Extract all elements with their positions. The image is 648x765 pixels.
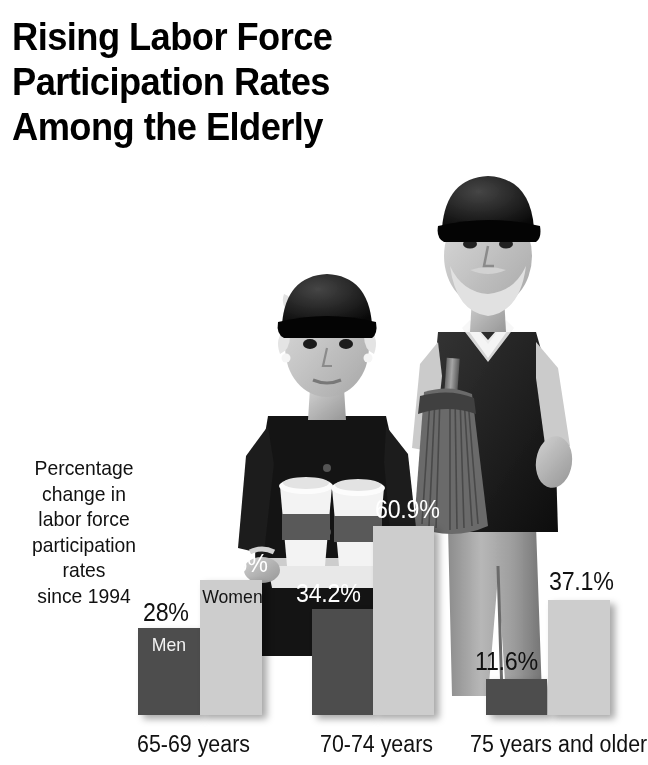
page-title: Rising Labor Force Participation Rates A… <box>12 14 442 149</box>
bar-label-men: Men <box>140 635 198 655</box>
bar-men-75-older <box>486 679 547 715</box>
value-label-men-70-74: 34.2% <box>296 580 361 606</box>
axis-label-75-older: 75 years and older <box>470 731 647 757</box>
title-line-1: Rising Labor Force <box>12 14 412 59</box>
value-label-men-75-older: 11.6% <box>475 648 538 674</box>
value-label-women-75-older: 37.1% <box>549 568 614 594</box>
caption-line-3: labor force <box>14 506 154 532</box>
caption-line-1: Percentage <box>14 455 154 481</box>
caption-line-6: since 1994 <box>14 583 154 609</box>
caption-line-5: rates <box>14 557 154 583</box>
axis-label-65-69: 65-69 years <box>137 731 250 757</box>
value-label-women-70-74: 60.9% <box>375 496 440 522</box>
value-label-women-65-69: 43.6% <box>203 550 268 576</box>
chart-caption: Percentage change in labor force partici… <box>14 455 154 608</box>
title-line-3: Among the Elderly <box>12 104 412 149</box>
bar-men-70-74 <box>312 609 373 715</box>
bar-women-65-69: Women <box>200 580 262 715</box>
infographic-page: Rising Labor Force Participation Rates A… <box>0 0 648 765</box>
bar-women-70-74 <box>373 526 434 715</box>
bar-men-65-69: Men <box>138 628 200 715</box>
axis-label-70-74: 70-74 years <box>320 731 433 757</box>
title-line-2: Participation Rates <box>12 59 412 104</box>
bar-women-75-older <box>548 600 610 715</box>
caption-line-2: change in <box>14 481 154 507</box>
caption-line-4: participation <box>14 532 154 558</box>
bar-label-women: Women <box>202 587 260 607</box>
